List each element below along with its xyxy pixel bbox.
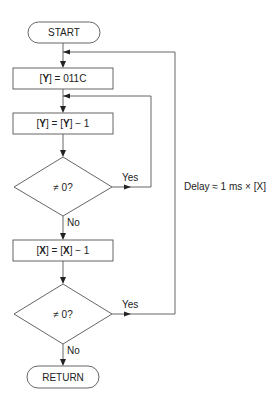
text-part: ] − 1: [70, 245, 90, 256]
arrowhead: [60, 277, 66, 284]
start-label: START: [48, 27, 80, 38]
return-label: RETURN: [42, 372, 84, 383]
text-part: ] = [: [46, 118, 63, 129]
start-terminal: START: [28, 22, 100, 43]
dec-y-box: [Y] = [Y] − 1: [13, 113, 113, 134]
arrowhead: [124, 185, 131, 190]
arrowhead: [60, 233, 66, 240]
check-y-no-label: No: [67, 217, 80, 228]
text-part: ] = [: [46, 245, 63, 256]
arrowhead: [124, 312, 131, 317]
text-part: ] = 011C: [49, 73, 86, 84]
dec-x-box: [X] = [X] − 1: [13, 240, 113, 261]
check-x-decision: ≠ 0?: [14, 284, 112, 344]
delay-annotation: Delay ≈ 1 ms × [X]: [184, 181, 266, 192]
arrowhead: [63, 50, 70, 55]
check-y-decision: ≠ 0?: [14, 157, 112, 216]
arrowhead: [60, 61, 66, 68]
arrowhead: [63, 94, 70, 99]
flowchart: START [Y] = 011C [Y] = [Y] − 1 ≠ 0? Yes …: [0, 0, 273, 405]
svg-text:[Y] = [Y] − 1: [Y] = [Y] − 1: [37, 118, 90, 129]
arrowhead: [60, 359, 66, 366]
arrowhead: [60, 106, 66, 113]
svg-text:[X] = [X] − 1: [X] = [X] − 1: [37, 245, 90, 256]
svg-text:[Y] = 011C: [Y] = 011C: [40, 73, 87, 84]
set-y-box: [Y] = 011C: [13, 68, 113, 89]
text-part: ] − 1: [70, 118, 90, 129]
check-x-yes-label: Yes: [122, 299, 138, 310]
arrowhead: [60, 150, 66, 157]
check-y-label: ≠ 0?: [53, 182, 73, 193]
check-x-no-label: No: [67, 345, 80, 356]
check-x-label: ≠ 0?: [53, 309, 73, 320]
check-y-yes-label: Yes: [122, 172, 138, 183]
return-terminal: RETURN: [27, 366, 99, 388]
